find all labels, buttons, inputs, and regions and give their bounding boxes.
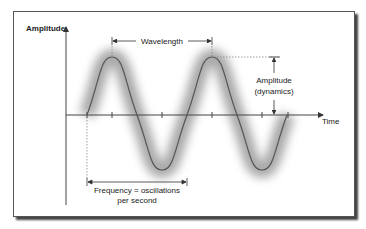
- wavelength-label: Wavelength: [141, 37, 183, 46]
- frequency-per-second-label: per second: [117, 196, 157, 205]
- frequency-bracket: [87, 178, 187, 186]
- frequency-label: Frequency = oscillations: [94, 186, 180, 195]
- amplitude-bracket: [269, 57, 280, 114]
- sine-wave-diagram: Wavelength Amplitude (dynamics) Frequenc…: [0, 0, 366, 229]
- amplitude-dynamics-label: (dynamics): [254, 87, 293, 96]
- y-axis-label: Amplitude: [26, 24, 66, 33]
- x-axis-label: Time: [322, 117, 340, 126]
- amplitude-label: Amplitude: [256, 76, 292, 85]
